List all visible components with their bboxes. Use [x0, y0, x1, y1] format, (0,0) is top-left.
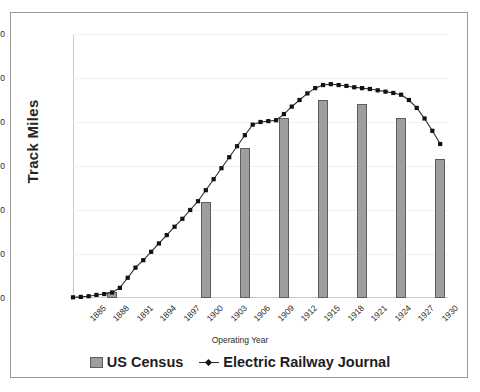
data-point-marker — [243, 133, 247, 137]
x-tick-label: 1918 — [345, 303, 365, 323]
data-point-marker — [172, 225, 176, 229]
x-tick-label: 1930 — [439, 303, 459, 323]
x-tick-label: 1921 — [369, 303, 389, 323]
data-point-marker — [383, 90, 387, 94]
chart-frame: Track Miles 60,00050,00040,00030,00020,0… — [10, 12, 468, 378]
data-point-marker — [274, 118, 278, 122]
x-axis-tick-labels: 1885188818911894189719001903190619091912… — [73, 301, 448, 335]
x-axis-title: Operating Year — [11, 335, 469, 345]
x-tick-label: 1903 — [228, 303, 248, 323]
data-point-marker — [313, 86, 317, 90]
x-tick-label: 1912 — [298, 303, 318, 323]
data-point-marker — [344, 84, 348, 88]
plot-area — [73, 34, 448, 298]
data-point-marker — [258, 120, 262, 124]
y-tick-label: 60,000 — [0, 29, 5, 39]
data-point-marker — [422, 116, 426, 120]
data-point-marker — [141, 258, 145, 262]
legend-bar-swatch-icon — [90, 357, 103, 368]
y-tick-label: 0 — [0, 293, 5, 303]
y-axis-tick-labels: 60,00050,00040,00030,00020,00010,0000 — [0, 34, 9, 298]
data-point-marker — [290, 105, 294, 109]
data-point-marker — [227, 155, 231, 159]
data-point-marker — [133, 266, 137, 270]
data-point-marker — [188, 208, 192, 212]
data-point-marker — [391, 91, 395, 95]
data-point-marker — [118, 286, 122, 290]
data-point-marker — [126, 276, 130, 280]
data-point-marker — [165, 233, 169, 237]
data-point-marker — [87, 294, 91, 298]
x-tick-label: 1924 — [392, 303, 412, 323]
data-point-marker — [321, 83, 325, 87]
data-point-marker — [157, 241, 161, 245]
x-tick-label: 1888 — [111, 303, 131, 323]
data-point-marker — [212, 177, 216, 181]
data-point-marker — [71, 295, 75, 299]
data-point-marker — [235, 144, 239, 148]
y-axis-title: Track Miles — [24, 77, 41, 207]
x-tick-label: 1885 — [88, 303, 108, 323]
data-point-marker — [337, 83, 341, 87]
x-tick-label: 1897 — [181, 303, 201, 323]
data-point-marker — [196, 199, 200, 203]
x-tick-label: 1906 — [252, 303, 272, 323]
y-tick-label: 40,000 — [0, 117, 5, 127]
data-point-marker — [329, 82, 333, 86]
x-tick-label: 1891 — [134, 303, 154, 323]
data-point-marker — [180, 217, 184, 221]
data-point-marker — [297, 98, 301, 102]
data-point-marker — [219, 166, 223, 170]
legend-label-us-census: US Census — [107, 354, 184, 370]
data-point-marker — [110, 290, 114, 294]
data-point-marker — [430, 129, 434, 133]
data-point-marker — [407, 98, 411, 102]
data-point-marker — [251, 123, 255, 127]
data-point-marker — [352, 85, 356, 89]
line-series-electric-railway-journal — [73, 34, 448, 298]
data-point-marker — [438, 142, 442, 146]
data-point-marker — [102, 292, 106, 296]
data-point-marker — [94, 293, 98, 297]
data-point-marker — [149, 250, 153, 254]
chart-legend: US Census Electric Railway Journal — [11, 351, 469, 373]
x-tick-label: 1894 — [158, 303, 178, 323]
data-point-marker — [415, 106, 419, 110]
y-tick-label: 20,000 — [0, 205, 5, 215]
legend-label-electric-railway-journal: Electric Railway Journal — [223, 354, 390, 370]
data-point-marker — [266, 119, 270, 123]
data-point-marker — [282, 112, 286, 116]
data-point-marker — [360, 86, 364, 90]
legend-item-electric-railway-journal: Electric Railway Journal — [199, 354, 390, 370]
x-tick-label: 1927 — [416, 303, 436, 323]
y-tick-label: 50,000 — [0, 73, 5, 83]
data-point-marker — [376, 88, 380, 92]
legend-line-marker-icon — [199, 357, 219, 367]
x-tick-label: 1900 — [205, 303, 225, 323]
x-tick-label: 1915 — [322, 303, 342, 323]
data-point-marker — [399, 93, 403, 97]
chart-canvas: Track Miles 60,00050,00040,00030,00020,0… — [11, 13, 469, 333]
y-tick-label: 30,000 — [0, 161, 5, 171]
data-point-marker — [305, 91, 309, 95]
x-tick-label: 1909 — [275, 303, 295, 323]
legend-item-us-census: US Census — [90, 354, 184, 370]
data-point-marker — [368, 87, 372, 91]
data-point-marker — [79, 295, 83, 299]
data-point-marker — [204, 188, 208, 192]
y-tick-label: 10,000 — [0, 249, 5, 259]
